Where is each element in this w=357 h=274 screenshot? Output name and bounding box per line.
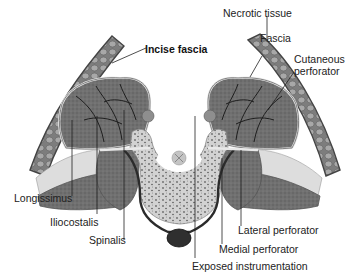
left-small-node [142,110,154,122]
vertebra [130,129,228,224]
label-iliocostalis: Iliocostalis [50,216,98,228]
right-small-node [204,110,216,122]
label-incise-fascia: Incise fascia [145,43,207,55]
label-spinalis: Spinalis [89,234,126,246]
label-medial-perforator: Medial perforator [219,243,298,255]
label-cutaneous-perforator-1: Cutaneous [294,53,345,65]
label-fascia: Fascia [260,32,291,44]
label-necrotic-tissue: Necrotic tissue [223,7,292,19]
label-exposed-instrumentation: Exposed instrumentation [192,260,308,272]
label-cutaneous-perforator-2: perforator [294,65,340,77]
label-longissimus: Longissimus [14,192,72,204]
label-lateral-perforator: Lateral perforator [238,224,319,236]
